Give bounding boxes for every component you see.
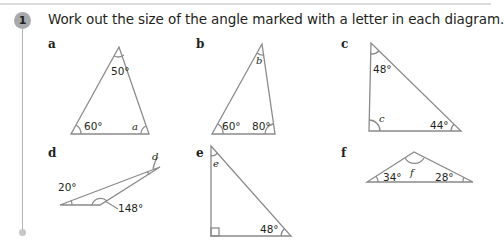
angle-label-50: 50°: [111, 65, 130, 77]
angle-label-20: 20°: [58, 181, 77, 193]
angle-label-44: 44°: [430, 119, 449, 131]
unknown-angle-c: c: [379, 113, 385, 124]
unknown-angle-a: a: [132, 121, 138, 132]
unknown-angle-e: e: [213, 158, 219, 169]
unknown-angle-f: f: [409, 167, 416, 178]
angle-label-48: 48°: [260, 223, 279, 235]
angle-label-34: 34°: [383, 171, 402, 183]
unknown-angle-b: b: [256, 55, 262, 66]
angle-label-60: 60°: [222, 120, 241, 132]
angle-label-48: 48°: [373, 63, 392, 75]
angle-label-80: 80°: [252, 120, 271, 132]
angle-label-28: 28°: [435, 171, 454, 183]
triangle-e: [211, 146, 291, 236]
angle-label-148: 148°: [118, 202, 143, 214]
angle-label-60: 60°: [84, 120, 103, 132]
unknown-angle-d: d: [152, 151, 158, 162]
